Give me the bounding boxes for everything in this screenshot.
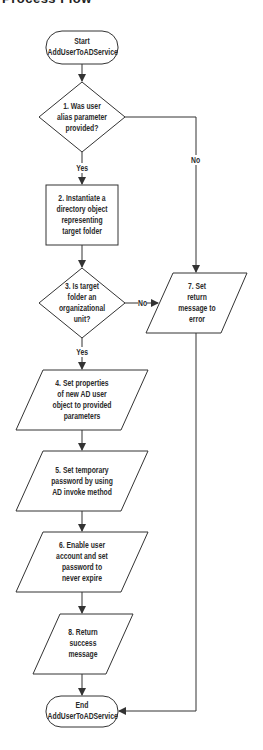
io-6-line: account and set: [45, 551, 119, 562]
process-2-line: representing: [49, 215, 115, 226]
io-8: 8. Return success message: [50, 627, 116, 660]
process-2-line: 2. Instantiate a: [49, 193, 115, 204]
end-service-name: AddUserToADService: [48, 711, 117, 722]
io-7-line: return: [164, 292, 230, 303]
decision-3-line: organizational: [49, 303, 115, 314]
edge-label-no-3: No: [138, 298, 147, 308]
io-8-line: message: [50, 649, 116, 660]
io-6-line: password to: [45, 562, 119, 573]
edge-label-yes-1: Yes: [76, 163, 88, 173]
io-4-line: 4. Set properties: [45, 378, 119, 389]
decision-1-line: 1. Was user: [49, 101, 115, 112]
io-4-line: object to provided: [45, 400, 119, 411]
io-7-line: message to: [164, 303, 230, 314]
io-4-line: of new AD user: [45, 389, 119, 400]
io-5-line: 5. Set temporary: [45, 465, 119, 476]
io-5: 5. Set temporary password by using AD in…: [45, 465, 119, 498]
decision-1: 1. Was user alias parameter provided?: [49, 101, 115, 134]
io-6-line: 6. Enable user: [45, 540, 119, 551]
io-6-line: never expire: [45, 573, 119, 584]
edge-1-to-7: [125, 117, 196, 272]
io-4-line: parameters: [45, 411, 119, 422]
process-2-line: target folder: [49, 226, 115, 237]
edge-label-yes-3: Yes: [76, 347, 88, 357]
io-6: 6. Enable user account and set password …: [45, 540, 119, 584]
start-terminal: Start AddUserToADService: [48, 36, 117, 58]
end-terminal: End AddUserToADService: [48, 700, 117, 722]
end-label: End: [48, 700, 117, 711]
decision-1-line: alias parameter: [49, 112, 115, 123]
io-5-line: password by using: [45, 476, 119, 487]
edge-label-no-1: No: [191, 155, 200, 165]
decision-1-line: provided?: [49, 123, 115, 134]
io-8-line: success: [50, 638, 116, 649]
io-7-line: 7. Set: [164, 281, 230, 292]
decision-3-line: 3. Is target: [49, 281, 115, 292]
decision-3-line: folder an: [49, 292, 115, 303]
flowchart-canvas: [0, 0, 263, 750]
io-8-line: 8. Return: [50, 627, 116, 638]
io-7-line: error: [164, 314, 230, 325]
io-5-line: AD invoke method: [45, 487, 119, 498]
io-7: 7. Set return message to error: [164, 281, 230, 325]
start-label: Start: [48, 36, 117, 47]
io-4: 4. Set properties of new AD user object …: [45, 378, 119, 422]
decision-3-line: unit?: [49, 314, 115, 325]
edge-7-to-end: [119, 333, 196, 711]
process-2: 2. Instantiate a directory object repres…: [49, 193, 115, 237]
start-service-name: AddUserToADService: [48, 47, 117, 58]
decision-3: 3. Is target folder an organizational un…: [49, 281, 115, 325]
process-2-line: directory object: [49, 204, 115, 215]
